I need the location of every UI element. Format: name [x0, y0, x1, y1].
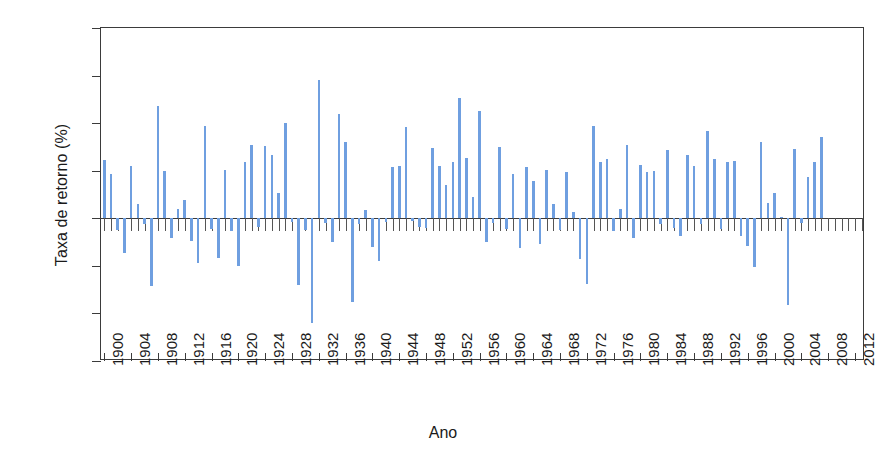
- bar: [760, 142, 763, 218]
- y-axis-title: Taxa de retorno (%): [53, 45, 71, 345]
- bar: [492, 218, 495, 223]
- bar: [713, 159, 716, 218]
- x-axis-major-tick-mark: [185, 353, 186, 361]
- x-axis-tick-mark: [513, 218, 514, 231]
- bar: [458, 98, 461, 218]
- x-axis-major-tick-mark: [775, 353, 776, 361]
- bar: [338, 114, 341, 219]
- x-axis-tick-mark: [500, 218, 501, 231]
- bar: [653, 171, 656, 219]
- bar: [364, 210, 367, 218]
- x-axis-major-tick-mark: [292, 353, 293, 361]
- x-axis-tick-mark: [547, 218, 548, 231]
- x-axis-tick-mark: [245, 218, 246, 231]
- bar: [726, 162, 729, 218]
- bar: [190, 218, 193, 241]
- bar: [250, 145, 253, 219]
- bar: [344, 142, 347, 218]
- bar: [532, 181, 535, 218]
- x-axis-tick-label: 1980: [645, 333, 662, 366]
- x-axis-tick-mark: [265, 218, 266, 231]
- x-axis-tick-label: 1964: [538, 333, 555, 366]
- x-axis-tick-mark: [600, 218, 601, 231]
- x-axis-tick-label: 1956: [485, 333, 502, 366]
- bar: [398, 166, 401, 218]
- x-axis-tick-label: 2012: [860, 333, 877, 366]
- bar: [445, 185, 448, 218]
- x-axis-tick-mark: [279, 218, 280, 231]
- x-axis-tick-mark: [855, 218, 856, 231]
- bar: [485, 218, 488, 242]
- x-axis-tick-mark: [768, 218, 769, 231]
- bar: [733, 161, 736, 218]
- bar: [411, 218, 414, 220]
- x-axis-tick-mark: [694, 218, 695, 231]
- bar: [116, 218, 119, 230]
- x-axis-major-tick-mark: [828, 353, 829, 361]
- x-axis-tick-label: 1912: [190, 333, 207, 366]
- bar: [230, 218, 233, 231]
- x-axis-tick-label: 2008: [833, 333, 850, 366]
- bar: [123, 218, 126, 252]
- bar: [351, 218, 354, 301]
- bar: [813, 162, 816, 218]
- bar: [472, 197, 475, 218]
- bar: [271, 155, 274, 218]
- bar: [793, 149, 796, 218]
- bar: [559, 218, 562, 230]
- bar: [539, 218, 542, 244]
- x-axis-tick-label: 1924: [270, 333, 287, 366]
- x-axis-major-tick-mark: [158, 353, 159, 361]
- x-axis-tick-label: 1900: [109, 333, 126, 366]
- bar: [358, 218, 361, 224]
- x-axis-tick-mark: [466, 218, 467, 231]
- x-axis-tick-label: 1996: [753, 333, 770, 366]
- x-axis-tick-mark: [714, 218, 715, 231]
- bar: [204, 126, 207, 219]
- bar: [371, 218, 374, 247]
- x-axis-tick-label: 1920: [243, 333, 260, 366]
- x-axis-tick-mark: [111, 218, 112, 231]
- x-axis-tick-label: 1968: [565, 333, 582, 366]
- x-axis-tick-mark: [828, 218, 829, 231]
- x-axis-tick-mark: [527, 218, 528, 231]
- x-axis-major-tick-mark: [426, 353, 427, 361]
- y-axis-tick-mark: [92, 218, 101, 219]
- bar: [385, 218, 388, 222]
- bar: [619, 209, 622, 219]
- x-axis-tick-mark: [272, 218, 273, 231]
- bar: [304, 218, 307, 230]
- x-axis-tick-mark: [708, 218, 709, 231]
- x-axis-tick-mark: [862, 218, 863, 231]
- x-axis-tick-mark: [393, 218, 394, 231]
- bar: [767, 203, 770, 218]
- bar: [324, 218, 327, 223]
- x-axis-major-tick-mark: [614, 353, 615, 361]
- bar: [820, 137, 823, 218]
- x-axis-tick-label: 1908: [163, 333, 180, 366]
- x-axis-tick-mark: [567, 218, 568, 231]
- bar: [787, 218, 790, 305]
- x-axis-tick-mark: [781, 218, 782, 231]
- x-axis-tick-mark: [594, 218, 595, 231]
- bar: [284, 123, 287, 218]
- bar: [686, 155, 689, 218]
- bar: [318, 80, 321, 218]
- bar: [110, 174, 113, 218]
- x-axis-major-tick-mark: [480, 353, 481, 361]
- x-axis-tick-mark: [620, 218, 621, 231]
- bar: [452, 162, 455, 218]
- bar: [773, 193, 776, 218]
- x-axis-major-tick-mark: [801, 353, 802, 361]
- bar: [753, 218, 756, 267]
- x-axis-tick-mark: [339, 218, 340, 231]
- x-axis-tick-label: 2004: [806, 333, 823, 366]
- x-axis-major-tick-mark: [748, 353, 749, 361]
- x-axis-tick-mark: [553, 218, 554, 231]
- y-axis-tick-mark: [92, 361, 101, 362]
- x-axis-tick-mark: [728, 218, 729, 231]
- x-axis-tick-mark: [607, 218, 608, 231]
- bar: [632, 218, 635, 238]
- x-axis-tick-labels: 1900190419081912191619201924192819321936…: [100, 366, 864, 422]
- x-axis-tick-mark: [795, 218, 796, 231]
